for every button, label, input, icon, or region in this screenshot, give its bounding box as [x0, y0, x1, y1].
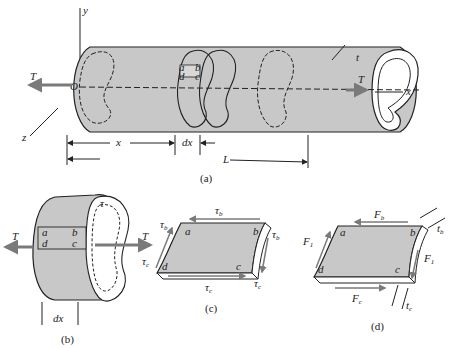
panel-c: a b c d τb τb τb τc τc τc (c) [142, 204, 280, 315]
corner-d: d [162, 260, 168, 272]
corner-a: a [185, 225, 191, 237]
tau-b-right-label: τb [272, 228, 280, 242]
thin-walled-tube-torsion-diagram: y a b c d O x z T T [0, 0, 451, 348]
corner-d: d [42, 237, 48, 249]
F-c-label: Fc [351, 292, 363, 306]
dim-dx-label: dx [53, 312, 64, 324]
tau-b-top-label: τb [215, 204, 223, 218]
dim-L-label: L [222, 153, 229, 165]
torque-right-label: T [142, 230, 149, 242]
corner-b: b [253, 225, 259, 237]
element-face [157, 223, 265, 273]
corner-c: c [195, 70, 200, 82]
dim-dx-label: dx [182, 136, 193, 148]
tau-c-left-label: τc [142, 255, 150, 269]
panel-b: a b c d τ T T dx (b) [6, 195, 150, 346]
tau-b-left-label: τb [160, 218, 168, 232]
t-b-label: tb [437, 222, 444, 236]
corner-a: a [340, 226, 346, 238]
y-axis-label: y [82, 4, 88, 16]
torque-right-label: T [358, 73, 365, 85]
caption-b: (b) [61, 333, 74, 346]
z-axis [30, 108, 58, 136]
shear-flow-path [92, 205, 120, 291]
torque-left-label: T [12, 230, 19, 242]
torque-left-label: T [30, 70, 37, 82]
F-1-left-label: F1 [302, 235, 313, 249]
caption-d: (d) [371, 320, 384, 333]
F-1-right-label: F1 [423, 252, 434, 266]
t-b-dim [420, 208, 437, 218]
t-c-label: tc [406, 299, 413, 313]
corner-c: c [72, 237, 77, 249]
F-b-label: Fb [373, 208, 385, 222]
element-face [314, 226, 422, 277]
caption-c: (c) [205, 302, 218, 315]
corner-d: d [318, 263, 324, 275]
panel-d: a b c d Fb Fc F1 F1 tb tc (d) [302, 208, 445, 333]
tau-c-bottom-label: τc [205, 281, 213, 295]
x-axis-label: x [405, 85, 411, 97]
element-edge-bottom [314, 277, 415, 283]
corner-b: b [410, 226, 416, 238]
corner-c: c [395, 263, 400, 275]
corner-d: d [179, 70, 185, 82]
caption-a: (a) [200, 172, 213, 185]
dim-x-label: x [115, 136, 121, 148]
z-axis-label: z [21, 131, 27, 143]
t-c-dim [392, 285, 398, 306]
corner-c: c [236, 260, 241, 272]
panel-a: y a b c d O x z T T [21, 0, 420, 185]
